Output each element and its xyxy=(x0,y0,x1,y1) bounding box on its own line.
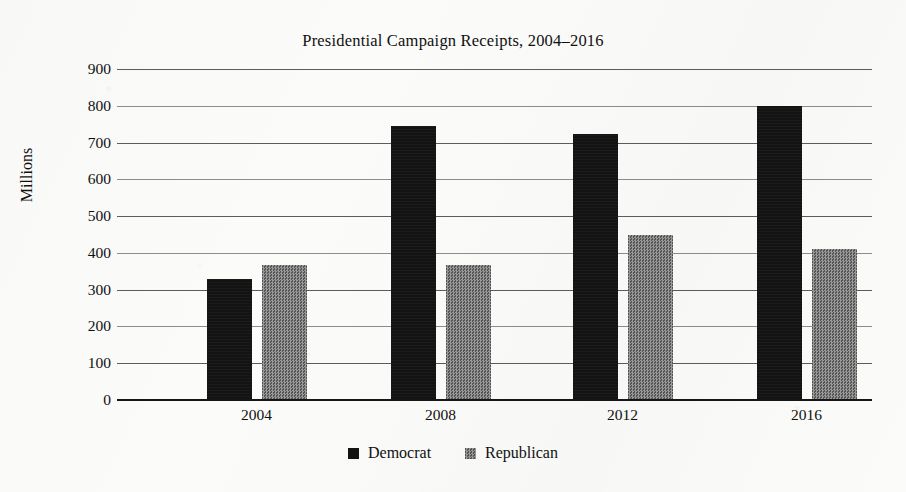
y-axis-title: Millions xyxy=(18,120,36,230)
y-tick-label: 500 xyxy=(57,207,111,225)
bar-democrat-2012 xyxy=(573,134,618,400)
plot-area xyxy=(117,69,872,400)
y-tick-label: 900 xyxy=(57,60,111,78)
bar-republican-2012 xyxy=(628,235,673,401)
y-tick-label: 300 xyxy=(57,281,111,299)
bar-democrat-2004 xyxy=(207,279,252,400)
y-tick-label: 100 xyxy=(57,354,111,372)
legend-label-republican: Republican xyxy=(485,444,558,462)
bar-democrat-2016 xyxy=(757,106,802,400)
y-tick-label: 200 xyxy=(57,317,111,335)
x-tick-label-2016: 2016 xyxy=(747,406,867,424)
y-tick-label: 0 xyxy=(57,391,111,409)
legend-swatch-icon-democrat xyxy=(348,448,359,459)
x-tick-label-2004: 2004 xyxy=(197,406,317,424)
gridline xyxy=(117,69,872,70)
y-tick-label: 600 xyxy=(57,170,111,188)
chart-title: Presidential Campaign Receipts, 2004–201… xyxy=(0,31,906,51)
x-tick-label-2012: 2012 xyxy=(563,406,683,424)
y-tick-label: 400 xyxy=(57,244,111,262)
y-tick-label: 700 xyxy=(57,134,111,152)
y-axis-tick-labels: 9008007006005004003002001000 xyxy=(55,69,111,400)
bar-republican-2016 xyxy=(812,249,857,400)
legend-label-democrat: Democrat xyxy=(368,444,431,462)
legend-entry-democrat[interactable]: Democrat xyxy=(348,444,431,462)
y-tick-label: 800 xyxy=(57,97,111,115)
bar-republican-2004 xyxy=(262,265,307,400)
legend-entry-republican[interactable]: Republican xyxy=(465,444,558,462)
x-tick-label-2008: 2008 xyxy=(381,406,501,424)
bar-democrat-2008 xyxy=(391,126,436,400)
bar-republican-2008 xyxy=(446,265,491,400)
x-axis-line xyxy=(117,399,872,401)
chart-legend: DemocratRepublican xyxy=(0,444,906,462)
legend-swatch-icon-republican xyxy=(465,448,476,459)
x-axis-tick-labels: 2004200820122016 xyxy=(117,406,872,432)
bar-chart-figure: Presidential Campaign Receipts, 2004–201… xyxy=(0,0,906,492)
